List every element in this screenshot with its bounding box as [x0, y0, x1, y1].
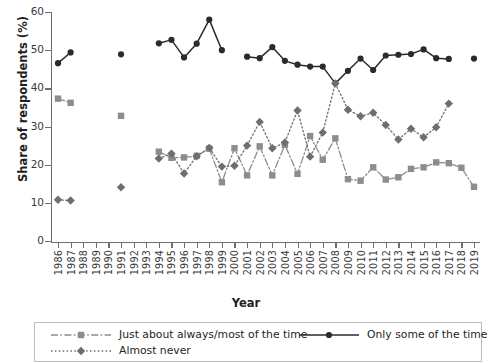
- chart-legend: Just about always/most of the timeOnly s…: [34, 322, 482, 362]
- x-axis-tick: [260, 243, 261, 248]
- x-axis-tick: [209, 243, 210, 248]
- x-axis-tick: [373, 243, 374, 248]
- x-axis-tick-label: 2018: [456, 250, 467, 275]
- x-axis-line: [51, 242, 480, 243]
- x-axis-tick: [424, 243, 425, 248]
- x-axis-tick-label: 2009: [343, 250, 354, 275]
- x-axis-tick: [108, 243, 109, 248]
- x-axis-tick: [247, 243, 248, 248]
- x-axis-tick: [449, 243, 450, 248]
- y-axis-tick: [45, 12, 51, 13]
- x-axis-tick: [159, 243, 160, 248]
- x-axis-tick: [83, 243, 84, 248]
- x-axis-tick-label: 1990: [103, 250, 114, 275]
- x-axis-tick-label: 1992: [129, 250, 140, 275]
- x-axis-tick-label: 2016: [431, 250, 442, 275]
- x-axis-tick-label: 1993: [141, 250, 152, 275]
- legend-label: Only some of the time: [367, 328, 487, 341]
- x-axis-tick: [71, 243, 72, 248]
- legend-item[interactable]: Only some of the time: [297, 328, 487, 341]
- x-axis-tick: [411, 243, 412, 248]
- legend-item[interactable]: Just about always/most of the time: [49, 328, 307, 341]
- x-axis-tick: [398, 243, 399, 248]
- x-axis-tick-label: 1986: [53, 250, 64, 275]
- series-1: [55, 95, 477, 190]
- x-axis-tick-label: 1987: [66, 250, 77, 275]
- x-axis-tick-label: 2010: [356, 250, 367, 275]
- x-axis-tick-label: 1995: [166, 250, 177, 275]
- x-axis-tick-label: 2007: [318, 250, 329, 275]
- x-axis-tick-label: 2005: [293, 250, 304, 275]
- legend-swatch-square-icon: [49, 329, 113, 341]
- x-axis-tick-label: 1997: [192, 250, 203, 275]
- x-axis-tick: [461, 243, 462, 248]
- x-axis-tick-label: 2012: [381, 250, 392, 275]
- y-axis-tick: [45, 127, 51, 128]
- series-3: [54, 79, 453, 205]
- x-axis-tick-label: 2001: [242, 250, 253, 275]
- x-axis-tick: [171, 243, 172, 248]
- x-axis-tick: [121, 243, 122, 248]
- series-canvas: [52, 12, 480, 241]
- x-axis-tick-label: 2015: [419, 250, 430, 275]
- x-axis-tick-label: 2000: [229, 250, 240, 275]
- y-axis-tick: [45, 50, 51, 51]
- x-axis-tick: [222, 243, 223, 248]
- x-axis-tick-label: 1988: [78, 250, 89, 275]
- x-axis-tick: [96, 243, 97, 248]
- plot-area: [52, 12, 480, 241]
- x-axis-tick: [197, 243, 198, 248]
- x-axis-tick: [134, 243, 135, 248]
- x-axis-tick-label: 1998: [204, 250, 215, 275]
- y-axis-tick: [45, 203, 51, 204]
- x-axis-tick-label: 1989: [91, 250, 102, 275]
- x-axis-tick: [310, 243, 311, 248]
- y-axis-tick: [45, 241, 51, 242]
- x-axis-title: Year: [0, 296, 492, 310]
- x-axis-tick: [234, 243, 235, 248]
- x-axis-tick-label: 2006: [305, 250, 316, 275]
- x-axis-tick-label: 1994: [154, 250, 165, 275]
- legend-swatch-circle-icon: [297, 329, 361, 341]
- x-axis-tick-label: 2013: [393, 250, 404, 275]
- x-axis-tick: [474, 243, 475, 248]
- legend-swatch-diamond-icon: [49, 345, 113, 357]
- y-axis-tick: [45, 165, 51, 166]
- x-axis-tick-label: 2004: [280, 250, 291, 275]
- x-axis-tick-label: 2017: [444, 250, 455, 275]
- x-axis-tick-label: 2014: [406, 250, 417, 275]
- legend-label: Just about always/most of the time: [119, 328, 307, 341]
- series-2: [55, 17, 477, 87]
- x-axis-tick: [184, 243, 185, 248]
- x-axis-tick: [436, 243, 437, 248]
- x-axis-tick: [361, 243, 362, 248]
- x-axis-tick: [58, 243, 59, 248]
- y-axis-tick: [45, 88, 51, 89]
- chart-root: 6050403020100 Share of respondents (%) Y…: [0, 0, 492, 363]
- x-axis-tick-label: 2008: [330, 250, 341, 275]
- x-axis-tick-label: 2002: [255, 250, 266, 275]
- legend-item[interactable]: Almost never: [49, 344, 191, 357]
- x-axis-tick-label: 2003: [267, 250, 278, 275]
- x-axis-tick: [323, 243, 324, 248]
- y-axis-tick-label: 0: [2, 235, 44, 245]
- y-axis-tick-label: 10: [2, 197, 44, 207]
- x-axis-tick-label: 2011: [368, 250, 379, 275]
- x-axis-tick-label: 1999: [217, 250, 228, 275]
- x-axis-tick: [272, 243, 273, 248]
- x-axis-tick-label: 1996: [179, 250, 190, 275]
- x-axis-tick: [298, 243, 299, 248]
- x-axis-tick-label: 2019: [469, 250, 480, 275]
- x-axis-tick-label: 1991: [116, 250, 127, 275]
- x-axis-tick: [335, 243, 336, 248]
- x-axis-tick: [386, 243, 387, 248]
- legend-label: Almost never: [119, 344, 191, 357]
- x-axis-tick: [146, 243, 147, 248]
- x-axis-tick: [348, 243, 349, 248]
- x-axis-tick: [285, 243, 286, 248]
- y-axis-title: Share of respondents (%): [16, 14, 30, 184]
